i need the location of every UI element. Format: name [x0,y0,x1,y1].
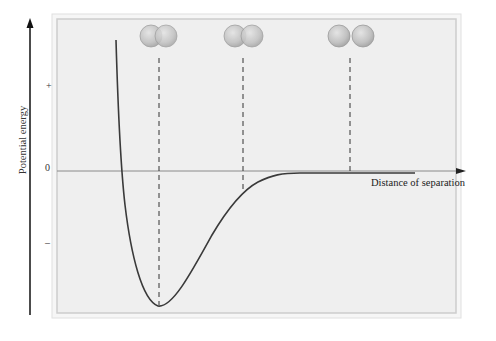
atom-icon [241,25,263,47]
y-axis-title: Potential energy [17,106,28,174]
x-axis-title: Distance of separation [371,177,465,188]
y-label-minus: – [45,237,50,248]
y-axis-arrow [27,18,34,315]
atom-icon [155,25,177,47]
atom-icon [352,25,374,47]
potential-energy-diagram: + 0 – Potential energy Distance of separ… [0,0,496,341]
molecule-overlapping [140,25,177,47]
y-label-plus: + [46,80,52,91]
y-label-zero: 0 [45,162,50,173]
atom-icon [328,25,350,47]
panel-frame [52,14,461,318]
